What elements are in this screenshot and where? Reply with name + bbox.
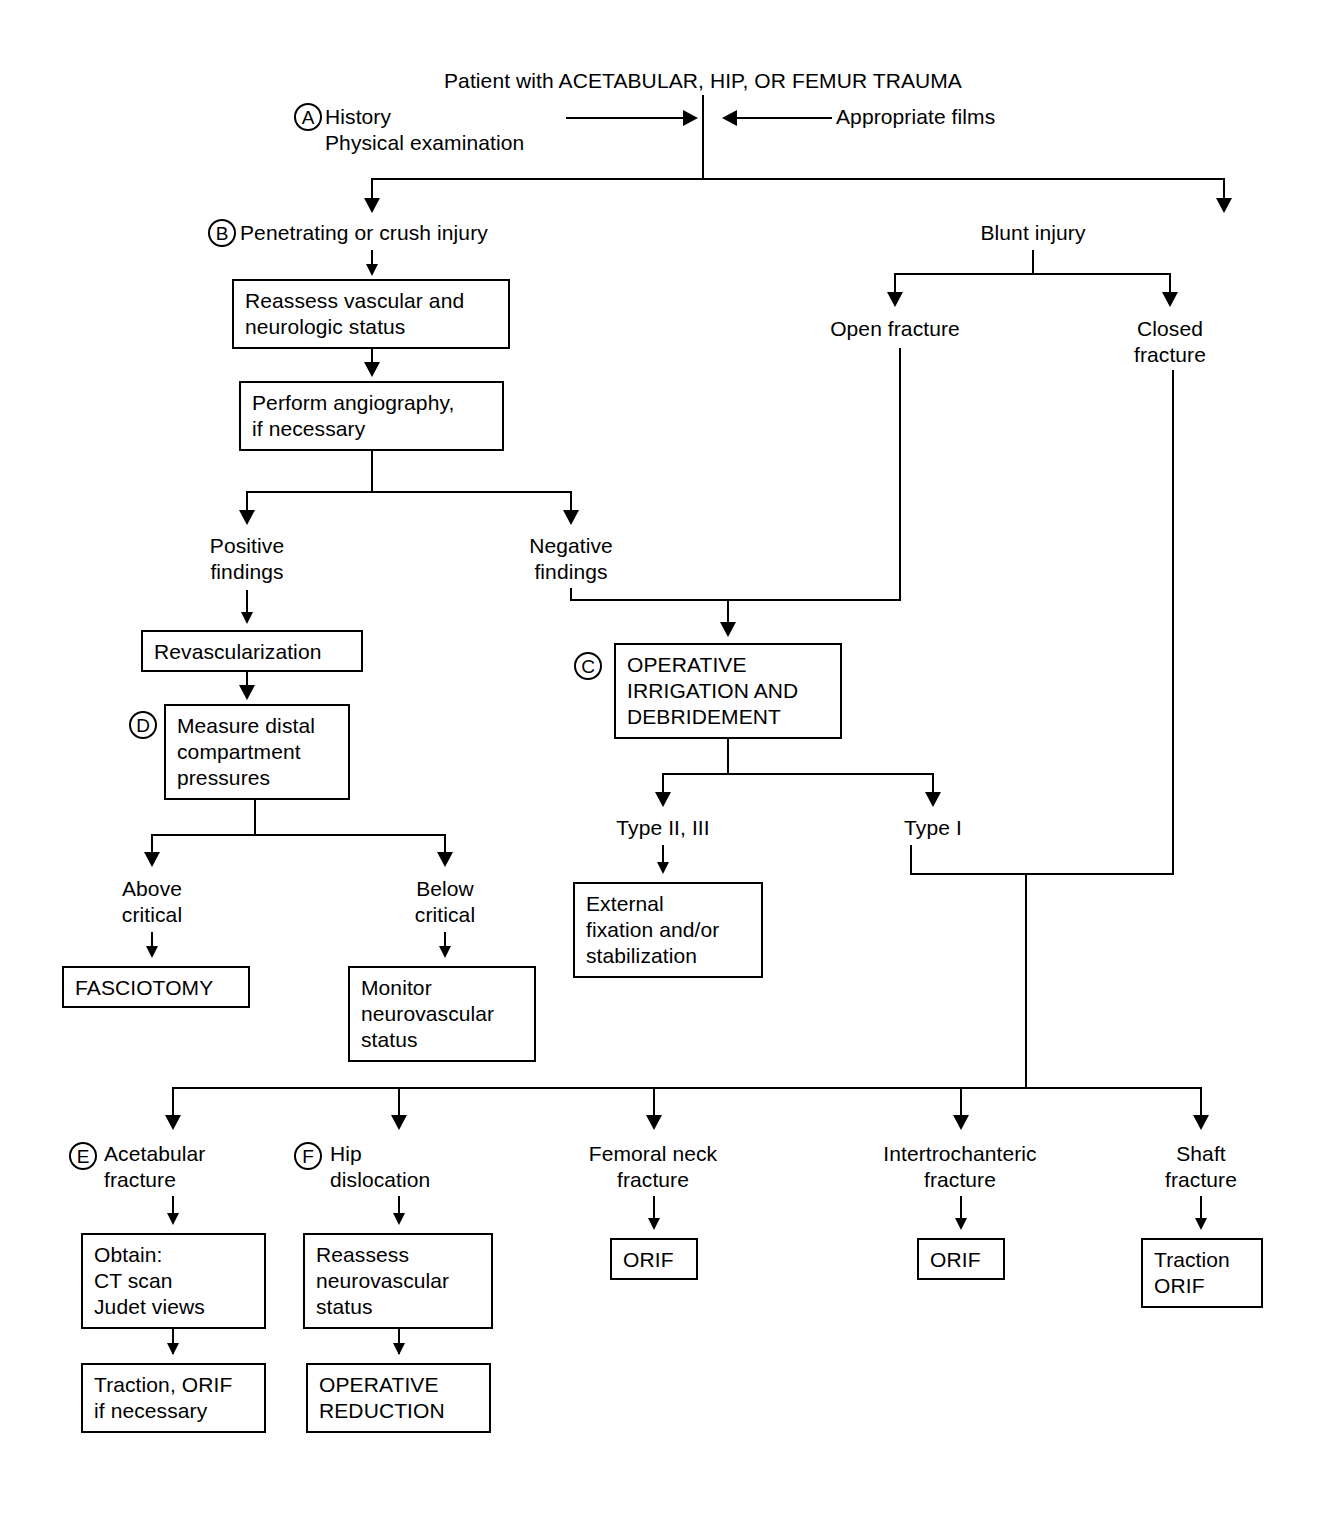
node-open-fracture: Open fracture: [780, 316, 1010, 342]
arrow-to-traction-orif-necessary: [167, 1343, 179, 1355]
split-bar-critical: [151, 834, 445, 836]
arrow-to-open-fracture: [887, 292, 903, 307]
connector-measure-down: [254, 800, 256, 835]
node-positive-findings: Positive findings: [152, 533, 342, 585]
box-orif-intertroch: ORIF: [917, 1238, 1005, 1280]
connector-type-i-down: [910, 845, 912, 875]
arrow-to-blunt: [1216, 198, 1232, 213]
annotation-letter-c: C: [574, 652, 602, 680]
node-history: History Physical examination: [325, 104, 625, 156]
node-negative-findings: Negative findings: [476, 533, 666, 585]
node-below-critical: Below critical: [360, 876, 530, 928]
connector-closed-fracture-down: [1172, 370, 1174, 875]
node-closed-fracture: Closed fracture: [1095, 316, 1245, 368]
node-type-i: Type I: [853, 815, 1013, 841]
node-intertrochanteric-fracture: Intertrochanteric fracture: [835, 1141, 1085, 1193]
spine-vertical: [702, 95, 704, 179]
split-bar-bottom: [172, 1087, 1202, 1089]
box-monitor-neurovascular: Monitor neurovascular status: [348, 966, 536, 1062]
connector-merged-to-bottom-bar: [1025, 873, 1027, 1088]
annotation-letter-b: B: [208, 219, 236, 247]
node-shaft-fracture: Shaft fracture: [1121, 1141, 1281, 1193]
arrow-to-angiography: [364, 362, 380, 377]
box-traction-orif: Traction ORIF: [1141, 1238, 1263, 1308]
arrow-to-operative-reduction: [393, 1343, 405, 1355]
box-operative-irrigation: OPERATIVE IRRIGATION AND DEBRIDEMENT: [614, 643, 842, 739]
box-fasciotomy: FASCIOTOMY: [62, 966, 250, 1008]
arrow-to-orif-intertroch: [955, 1218, 967, 1230]
connector-angio-down: [371, 451, 373, 492]
arrow-to-positive-findings: [239, 510, 255, 525]
arrow-to-intertrochanteric-fracture: [953, 1115, 969, 1130]
node-blunt-injury: Blunt injury: [923, 220, 1143, 246]
node-hip-dislocation: Hip dislocation: [330, 1141, 500, 1193]
node-penetrating-injury: Penetrating or crush injury: [240, 220, 570, 246]
box-revascularization: Revascularization: [141, 630, 363, 672]
annotation-letter-a: A: [294, 103, 322, 131]
arrow-to-type-i: [925, 792, 941, 807]
arrow-to-revascularization: [241, 612, 253, 624]
node-appropriate-films: Appropriate films: [836, 104, 1076, 130]
split-bar-types: [662, 773, 933, 775]
connector-blunt-down: [1032, 250, 1034, 274]
node-femoral-neck-fracture: Femoral neck fracture: [543, 1141, 763, 1193]
node-above-critical: Above critical: [67, 876, 237, 928]
arrow-to-femoral-neck-fracture: [646, 1115, 662, 1130]
connector-operative-down: [727, 739, 729, 774]
arrow-to-external-fixation: [657, 862, 669, 874]
merge-bar-type-i-closed: [910, 873, 1174, 875]
arrow-to-hip-dislocation: [391, 1115, 407, 1130]
arrow-to-penetrating: [364, 198, 380, 213]
box-reassess-vascular: Reassess vascular and neurologic status: [232, 279, 510, 349]
box-measure-distal: Measure distal compartment pressures: [164, 704, 350, 800]
arrow-right-to-spine: [683, 110, 698, 126]
arrow-to-obtain-ct: [167, 1213, 179, 1225]
arrow-to-above-critical: [144, 852, 160, 867]
box-traction-orif-necessary: Traction, ORIF if necessary: [81, 1363, 266, 1433]
box-obtain-ct: Obtain: CT scan Judet views: [81, 1233, 266, 1329]
arrow-to-operative-irrigation: [720, 622, 736, 637]
split-bar-findings: [246, 491, 572, 493]
arrow-to-acetabular-fracture: [165, 1115, 181, 1130]
page-title: Patient with ACETABULAR, HIP, OR FEMUR T…: [383, 68, 1023, 94]
flowchart-canvas: Patient with ACETABULAR, HIP, OR FEMUR T…: [0, 0, 1320, 1529]
arrow-left-to-spine: [722, 110, 737, 126]
arrow-to-reassess-vascular: [366, 264, 378, 276]
box-orif-femoral: ORIF: [610, 1238, 698, 1280]
split-bar-blunt: [894, 273, 1171, 275]
box-perform-angiography: Perform angiography, if necessary: [239, 381, 504, 451]
annotation-letter-f: F: [294, 1142, 322, 1170]
node-acetabular-fracture: Acetabular fracture: [104, 1141, 274, 1193]
arrow-to-traction-orif: [1195, 1218, 1207, 1230]
arrow-to-fasciotomy: [146, 946, 158, 958]
split-bar-top: [371, 178, 1224, 180]
arrow-to-monitor-neurovascular: [439, 946, 451, 958]
annotation-letter-d: D: [129, 711, 157, 739]
arrow-to-measure-distal: [239, 685, 255, 700]
box-external-fixation: External fixation and/or stabilization: [573, 882, 763, 978]
connector-films-to-spine: [736, 117, 832, 119]
connector-open-fracture-down: [899, 348, 901, 600]
arrow-to-orif-femoral: [648, 1218, 660, 1230]
merge-bar-into-operative: [570, 599, 901, 601]
arrow-to-reassess-neurovascular: [393, 1213, 405, 1225]
box-operative-reduction: OPERATIVE REDUCTION: [306, 1363, 491, 1433]
annotation-letter-e: E: [69, 1142, 97, 1170]
arrow-to-below-critical: [437, 852, 453, 867]
arrow-to-closed-fracture: [1162, 292, 1178, 307]
arrow-to-type-ii-iii: [655, 792, 671, 807]
connector-history-to-spine: [566, 117, 686, 119]
node-type-ii-iii: Type II, III: [568, 815, 758, 841]
arrow-to-negative-findings: [563, 510, 579, 525]
box-reassess-neurovascular: Reassess neurovascular status: [303, 1233, 493, 1329]
arrow-to-shaft-fracture: [1193, 1115, 1209, 1130]
